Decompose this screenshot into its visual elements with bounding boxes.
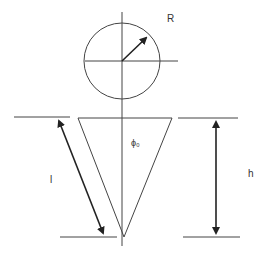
radius-arrow bbox=[122, 38, 146, 61]
slant-label: l bbox=[50, 174, 52, 185]
radius-label: R bbox=[167, 13, 174, 24]
slant-arrow bbox=[59, 121, 103, 233]
side-view: ϕ₀ l h bbox=[14, 117, 254, 237]
angle-label: ϕ₀ bbox=[131, 138, 140, 148]
cone-diagram: R ϕ₀ l h bbox=[0, 0, 266, 258]
height-label: h bbox=[248, 168, 254, 179]
top-view: R bbox=[84, 13, 178, 99]
cone-outline bbox=[78, 118, 172, 237]
